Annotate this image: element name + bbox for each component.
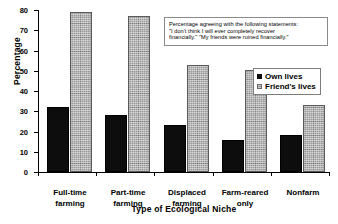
annotation-line-1: Percentage agreeing with the following s…	[169, 21, 323, 28]
y-tick-80	[34, 10, 38, 11]
y-tick-label-20: 20	[20, 127, 28, 136]
legend-swatch-icon-friends-lives	[257, 84, 262, 89]
annotation-line-3: financially." "My friends were ruined fi…	[169, 34, 323, 41]
y-tick-70	[34, 30, 38, 31]
y-tick-label-40: 40	[20, 87, 28, 96]
x-tick-0	[38, 172, 39, 176]
legend-swatch-icon-own-lives	[257, 74, 262, 79]
x-category-label-nonfarm: Nonfarm	[268, 188, 338, 199]
x-tick-1	[96, 172, 97, 176]
bar-own-nonfarm	[280, 135, 302, 173]
bar-own-displaced-farming	[164, 125, 186, 172]
bar-own-part-time-farming	[105, 115, 127, 172]
bar-friend-part-time-farming	[128, 16, 150, 172]
legend-item-friends-lives: Friend's lives	[257, 81, 316, 91]
y-tick-30	[34, 111, 38, 112]
bar-friend-full-time-farming	[70, 12, 92, 172]
y-tick-label-60: 60	[20, 46, 28, 55]
y-tick-label-0: 0	[24, 168, 28, 177]
y-axis-line	[38, 10, 39, 172]
bar-own-farm-reared-only	[222, 140, 244, 172]
legend: Own lives Friend's lives	[253, 68, 321, 95]
y-tick-label-80: 80	[20, 6, 28, 15]
x-axis-title: Type of Ecological Niche	[38, 204, 330, 214]
legend-item-own-lives: Own lives	[257, 71, 316, 81]
y-tick-60	[34, 51, 38, 52]
x-tick-5	[329, 172, 330, 176]
legend-label-friends-lives: Friend's lives	[265, 82, 316, 91]
y-tick-label-70: 70	[20, 26, 28, 35]
y-tick-10	[34, 152, 38, 153]
x-tick-3	[213, 172, 214, 176]
y-tick-label-50: 50	[20, 66, 28, 75]
bar-own-full-time-farming	[47, 107, 69, 172]
bar-chart: Percentage 0 10 20 30 40 50 60 70 80	[0, 0, 338, 224]
x-tick-4	[271, 172, 272, 176]
legend-label-own-lives: Own lives	[265, 72, 302, 81]
annotation-line-2: "I don't think I will ever completely re…	[169, 28, 323, 35]
annotation-textbox: Percentage agreeing with the following s…	[164, 17, 328, 46]
bar-friend-nonfarm	[303, 105, 325, 172]
bar-friend-displaced-farming	[187, 65, 209, 172]
x-axis-line	[38, 172, 330, 173]
y-tick-label-10: 10	[20, 148, 28, 157]
y-tick-20	[34, 132, 38, 133]
y-tick-40	[34, 91, 38, 92]
x-tick-2	[154, 172, 155, 176]
y-tick-50	[34, 71, 38, 72]
y-tick-label-30: 30	[20, 107, 28, 116]
